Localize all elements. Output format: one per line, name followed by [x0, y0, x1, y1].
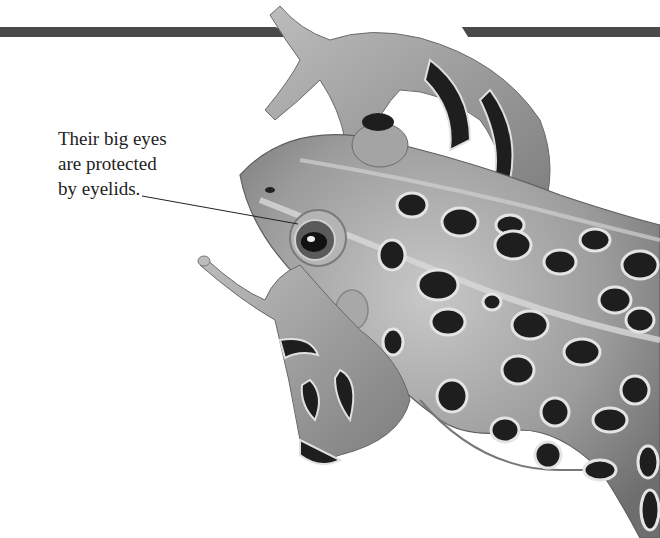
caption-line-2: are protected	[58, 151, 167, 176]
caption-line-3: by eyelids.	[58, 176, 167, 201]
frog-eye	[290, 210, 346, 266]
caption-text: Their big eyes are protected by eyelids.	[58, 126, 167, 201]
caption-line-1: Their big eyes	[58, 126, 167, 151]
frog-illustration	[0, 0, 660, 538]
